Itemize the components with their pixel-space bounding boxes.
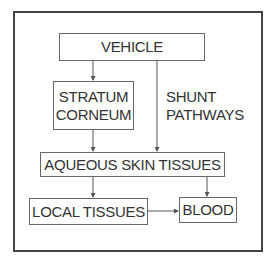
stratum-label-line1: STRATUM [59,89,128,105]
local-tissues-label: LOCAL TISSUES [32,204,145,220]
stratum-corneum-node: STRATUM CORNEUM [53,81,134,130]
shunt-label-line2: PATHWAYS [166,107,244,123]
aqueous-skin-tissues-node: AQUEOUS SKIN TISSUES [40,152,225,177]
aqueous-label: AQUEOUS SKIN TISSUES [44,157,220,173]
local-tissues-node: LOCAL TISSUES [29,198,148,225]
shunt-label-line1: SHUNT [166,89,244,105]
vehicle-label: VEHICLE [101,39,163,55]
blood-label: BLOOD [182,202,233,218]
blood-node: BLOOD [179,197,237,223]
vehicle-node: VEHICLE [59,33,205,61]
shunt-pathways-label: SHUNT PATHWAYS [166,89,244,123]
stratum-label-line2: CORNEUM [56,107,131,123]
